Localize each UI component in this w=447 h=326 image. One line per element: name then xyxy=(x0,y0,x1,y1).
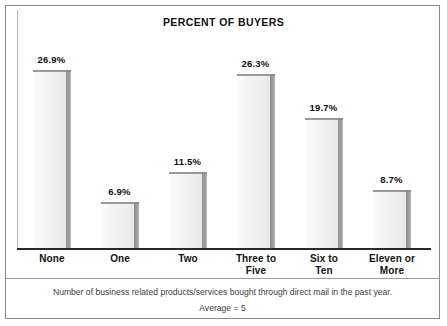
bar-two[interactable] xyxy=(169,172,207,248)
bar-shadow xyxy=(202,174,207,248)
bar-group-six-to-ten: 19.7% xyxy=(291,36,356,248)
bar-group-none: 26.9% xyxy=(19,36,84,248)
bar-three-to-five[interactable] xyxy=(237,74,275,248)
bar-body xyxy=(101,202,134,248)
bar-value-label: 26.3% xyxy=(242,58,270,69)
bar-cap-shadow xyxy=(134,202,139,204)
bar-column: 8.7% xyxy=(373,174,411,248)
bar-column: 11.5% xyxy=(169,156,207,248)
bar-cap xyxy=(373,190,406,192)
footer-note: Number of business related products/serv… xyxy=(6,286,439,315)
bar-group-one: 6.9% xyxy=(87,36,152,248)
x-label-eleven-or-more: Eleven or More xyxy=(352,253,432,277)
bar-value-label: 6.9% xyxy=(108,186,130,197)
bar-column: 26.9% xyxy=(33,54,71,248)
bar-shadow xyxy=(134,204,139,248)
y-axis-line xyxy=(17,10,18,248)
bar-value-label: 11.5% xyxy=(174,156,201,167)
bar-cap-shadow xyxy=(406,190,411,192)
bar-eleven-or-more[interactable] xyxy=(373,190,411,248)
bar-cap xyxy=(237,74,270,76)
bar-body xyxy=(33,70,66,248)
bar-body xyxy=(237,74,270,248)
bar-group-eleven-or-more: 8.7% xyxy=(359,36,424,248)
bar-cap-shadow xyxy=(66,70,71,72)
bar-cap xyxy=(101,202,134,204)
bar-shadow xyxy=(406,192,411,248)
x-label-line: Eleven or xyxy=(352,253,432,265)
bar-cap xyxy=(305,118,338,120)
bar-group-two: 11.5% xyxy=(155,36,220,248)
bar-shadow xyxy=(338,120,343,248)
bar-column: 26.3% xyxy=(237,58,275,248)
bar-body xyxy=(169,172,202,248)
bar-column: 19.7% xyxy=(305,102,343,248)
bar-cap-shadow xyxy=(202,172,207,174)
bar-shadow xyxy=(270,76,275,248)
bar-value-label: 26.9% xyxy=(38,54,66,65)
bar-six-to-ten[interactable] xyxy=(305,118,343,248)
x-label-line: More xyxy=(352,265,432,277)
chart-title: PERCENT OF BUYERS xyxy=(6,16,440,28)
x-axis-line xyxy=(17,248,431,250)
bar-cap-shadow xyxy=(270,74,275,76)
bar-cap xyxy=(33,70,66,72)
bar-group-three-to-five: 26.3% xyxy=(223,36,288,248)
bar-shadow xyxy=(66,72,71,248)
bar-body xyxy=(373,190,406,248)
footer-divider xyxy=(6,278,439,279)
plot-area: 26.9% 6.9% xyxy=(17,36,429,248)
bar-column: 6.9% xyxy=(101,186,139,248)
bar-cap xyxy=(169,172,202,174)
bar-none[interactable] xyxy=(33,70,71,248)
footer-average: Average = 5 xyxy=(6,302,439,315)
bar-value-label: 19.7% xyxy=(310,102,338,113)
footer-description: Number of business related products/serv… xyxy=(6,286,439,299)
bar-one[interactable] xyxy=(101,202,139,248)
bar-body xyxy=(305,118,338,248)
bar-cap-shadow xyxy=(338,118,343,120)
bar-value-label: 8.7% xyxy=(380,174,402,185)
chart-figure: PERCENT OF BUYERS 26.9% 6.9% xyxy=(5,5,440,319)
